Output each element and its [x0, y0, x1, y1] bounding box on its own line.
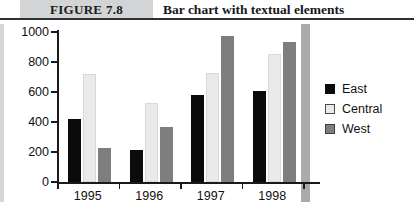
- bar-central-1998: [268, 54, 281, 182]
- x-axis-tick: [180, 182, 182, 189]
- y-axis-label-text: 200: [5, 146, 49, 158]
- y-axis-label: 0: [0, 176, 49, 188]
- y-axis-label: 400: [0, 116, 49, 128]
- bar-central-1995: [83, 74, 96, 182]
- chart-legend: EastCentralWest: [325, 79, 411, 139]
- figure-number: FIGURE 7.8: [20, 1, 153, 18]
- y-axis-label-text: 800: [5, 56, 49, 68]
- x-axis-label-1996: 1996: [119, 189, 179, 203]
- y-axis-label: 200: [0, 146, 49, 158]
- x-axis-tick: [242, 182, 244, 189]
- legend-swatch-icon: [325, 84, 335, 94]
- x-axis-label-1997: 1997: [181, 189, 241, 203]
- x-axis-line: [57, 182, 320, 184]
- legend-label: Central: [342, 102, 382, 116]
- bar-central-1996: [145, 103, 158, 183]
- legend-item-east: East: [325, 79, 411, 99]
- y-axis-label-text: 600: [5, 86, 49, 98]
- x-axis-tick: [119, 182, 121, 189]
- y-axis-label-text: 0: [5, 176, 49, 188]
- legend-swatch-icon: [325, 104, 335, 114]
- legend-swatch-icon: [325, 124, 335, 134]
- bar-west-1998: [283, 42, 296, 182]
- plot-area: [57, 32, 303, 182]
- legend-item-west: West: [325, 119, 411, 139]
- x-axis-tick: [57, 182, 59, 189]
- bar-east-1997: [191, 95, 204, 182]
- bar-west-1997: [221, 36, 234, 182]
- bar-east-1995: [68, 119, 81, 182]
- legend-label: East: [342, 82, 367, 96]
- bar-east-1996: [130, 150, 143, 182]
- y-axis-label: 800: [0, 56, 49, 68]
- bar-central-1997: [206, 73, 219, 182]
- legend-label: West: [342, 122, 370, 136]
- bar-east-1998: [253, 91, 266, 182]
- y-axis-label: 1000: [0, 26, 49, 38]
- figure-title: Bar chart with textual elements: [163, 1, 344, 18]
- y-axis-label: 600: [0, 86, 49, 98]
- header-divider: [0, 18, 414, 20]
- x-axis-label-1998: 1998: [242, 189, 302, 203]
- y-axis-label-text: 1000: [5, 26, 49, 38]
- bar-west-1995: [98, 148, 111, 182]
- x-axis-tick: [303, 182, 305, 189]
- legend-item-central: Central: [325, 99, 411, 119]
- bar-west-1996: [160, 127, 173, 183]
- y-axis-label-text: 400: [5, 116, 49, 128]
- x-axis-label-1995: 1995: [58, 189, 118, 203]
- figure-header: FIGURE 7.8 Bar chart with textual elemen…: [0, 0, 414, 21]
